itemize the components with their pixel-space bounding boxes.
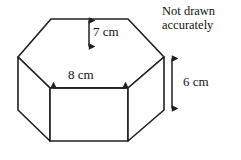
hexagonal-prism-figure: 7 cm 8 cm 6 cm Not drawn accurately <box>0 0 241 160</box>
width-dimension-label: 8 cm <box>68 68 94 83</box>
not-drawn-accurately-note: Not drawn accurately <box>162 4 215 32</box>
prism-front-center-face <box>50 88 128 141</box>
note-line-1: Not drawn <box>162 4 215 18</box>
note-line-2: accurately <box>162 18 215 32</box>
height-dimension-label: 6 cm <box>183 75 209 90</box>
depth-dimension-label: 7 cm <box>93 25 119 40</box>
